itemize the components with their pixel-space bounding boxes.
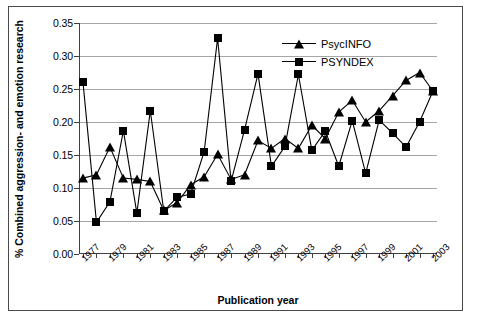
- data-point-psyndex: [160, 207, 168, 215]
- y-tick-label: 0.30: [53, 50, 73, 62]
- y-tick-label: 0.10: [53, 182, 73, 194]
- data-point-psycinfo: [374, 106, 384, 115]
- y-axis-tick-labels: 0.000.050.100.150.200.250.300.35: [9, 23, 73, 254]
- data-point-psyndex: [146, 107, 154, 115]
- data-point-psycinfo: [307, 121, 317, 130]
- y-tick-label: 0.05: [53, 215, 73, 227]
- data-point-psyndex: [348, 117, 356, 125]
- data-point-psycinfo: [361, 118, 371, 127]
- plot-area: PsycINFO PSYNDEX: [79, 23, 437, 254]
- data-point-psycinfo: [401, 76, 411, 85]
- chart-legend: PsycINFO PSYNDEX: [282, 35, 374, 71]
- data-point-psyndex: [321, 127, 329, 135]
- data-point-psyndex: [106, 198, 114, 206]
- data-point-psycinfo: [118, 174, 128, 183]
- data-point-psyndex: [119, 127, 127, 135]
- data-point-psycinfo: [186, 180, 196, 189]
- chart-frame: % Combined aggression- and emotion resea…: [8, 6, 463, 311]
- data-point-psycinfo: [253, 136, 263, 145]
- data-point-psycinfo: [347, 96, 357, 105]
- legend-item-psycinfo: PsycINFO: [282, 35, 374, 53]
- data-point-psyndex: [267, 162, 275, 170]
- data-point-psycinfo: [199, 172, 209, 181]
- y-tick-label: 0.25: [53, 83, 73, 95]
- data-point-psycinfo: [91, 170, 101, 179]
- data-point-psycinfo: [388, 91, 398, 100]
- data-point-psyndex: [227, 177, 235, 185]
- y-tick-label: 0.15: [53, 149, 73, 161]
- legend-symbol-square: [282, 55, 316, 69]
- data-point-psycinfo: [266, 144, 276, 153]
- data-point-psyndex: [200, 148, 208, 156]
- data-point-psycinfo: [240, 170, 250, 179]
- series-line-psyndex: [83, 38, 433, 222]
- data-point-psycinfo: [105, 143, 115, 152]
- data-point-psyndex: [362, 169, 370, 177]
- legend-label-psycinfo: PsycINFO: [321, 38, 371, 50]
- data-point-psycinfo: [213, 150, 223, 159]
- data-point-psyndex: [173, 193, 181, 201]
- data-point-psycinfo: [415, 68, 425, 77]
- data-point-psyndex: [294, 70, 302, 78]
- data-point-psyndex: [402, 143, 410, 151]
- data-point-psyndex: [214, 34, 222, 42]
- data-point-psyndex: [133, 209, 141, 217]
- data-point-psycinfo: [293, 144, 303, 153]
- data-point-psyndex: [429, 87, 437, 95]
- data-point-psyndex: [92, 218, 100, 226]
- data-point-psyndex: [375, 116, 383, 124]
- data-point-psyndex: [79, 78, 87, 86]
- legend-label-psyndex: PSYNDEX: [321, 56, 374, 68]
- data-point-psycinfo: [78, 174, 88, 183]
- y-tick-label: 0.35: [53, 17, 73, 29]
- data-point-psyndex: [281, 142, 289, 150]
- data-point-psycinfo: [132, 175, 142, 184]
- data-point-psyndex: [254, 70, 262, 78]
- x-axis-tick-labels: 1977197919811983198519871989199119931995…: [79, 256, 437, 294]
- x-axis-title: Publication year: [79, 294, 437, 306]
- data-point-psycinfo: [145, 177, 155, 186]
- data-point-psyndex: [389, 129, 397, 137]
- data-point-psyndex: [308, 146, 316, 154]
- data-point-psyndex: [335, 162, 343, 170]
- data-point-psyndex: [241, 126, 249, 134]
- legend-item-psyndex: PSYNDEX: [282, 53, 374, 71]
- data-point-psyndex: [187, 190, 195, 198]
- legend-symbol-triangle: [282, 37, 316, 51]
- data-point-psyndex: [416, 118, 424, 126]
- data-point-psycinfo: [334, 108, 344, 117]
- y-tick-label: 0.20: [53, 116, 73, 128]
- y-tick-label: 0.00: [53, 248, 73, 260]
- data-point-psycinfo: [320, 134, 330, 143]
